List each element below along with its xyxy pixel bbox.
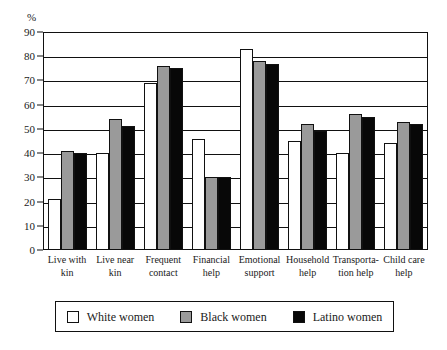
y-axis-tick-label: 70: [24, 75, 35, 86]
y-axis-tick-label: 60: [24, 99, 35, 110]
y-axis-unit-label: %: [27, 12, 36, 23]
legend-item[interactable]: Black women: [180, 311, 266, 323]
bar: [349, 114, 362, 250]
legend-item[interactable]: Latino women: [293, 311, 383, 323]
bar: [397, 122, 410, 250]
legend-swatch-icon: [67, 311, 79, 323]
bar: [122, 126, 135, 250]
x-axis-labels: Live with kinLive near kinFrequent conta…: [43, 254, 428, 294]
legend-swatch-icon: [180, 311, 192, 323]
legend-item-label: White women: [87, 311, 155, 323]
bar: [362, 117, 375, 250]
bar: [109, 119, 122, 250]
bar-group: [43, 32, 91, 250]
bar: [266, 64, 279, 251]
bar: [170, 68, 183, 250]
x-axis-category-label: Transporta- tion help: [332, 254, 380, 279]
x-axis-category-label: Emotional support: [236, 254, 284, 279]
bar: [410, 124, 423, 250]
bar: [74, 153, 87, 250]
y-axis-tick-label: 30: [24, 172, 35, 183]
bar: [301, 124, 314, 250]
x-axis-category-label: Live near kin: [91, 254, 139, 279]
bar: [61, 151, 74, 250]
bar: [288, 141, 301, 250]
y-axis-tick-label: 40: [24, 148, 35, 159]
bar: [96, 153, 109, 250]
bar-group: [139, 32, 187, 250]
y-axis: 0102030405060708090: [0, 32, 43, 250]
bar: [314, 131, 327, 250]
bar: [240, 49, 253, 250]
bar: [253, 61, 266, 250]
legend-swatch-icon: [293, 311, 305, 323]
x-axis-category-label: Live with kin: [43, 254, 91, 279]
x-axis-category-label: Household help: [284, 254, 332, 279]
bar: [218, 177, 231, 250]
legend: White womenBlack womenLatino women: [55, 301, 394, 332]
bar-group: [332, 32, 380, 250]
bar: [205, 177, 218, 250]
x-axis-category-label: Frequent contact: [139, 254, 187, 279]
legend-item-label: Black women: [200, 311, 266, 323]
x-axis-category-label: Financial help: [187, 254, 235, 279]
bar-group: [187, 32, 235, 250]
y-axis-tick-label: 10: [24, 220, 35, 231]
bar-group: [284, 32, 332, 250]
x-axis-category-label: Child care help: [380, 254, 428, 279]
y-axis-tick-label: 90: [24, 27, 35, 38]
bar: [144, 83, 157, 250]
y-axis-tick-label: 50: [24, 123, 35, 134]
legend-item[interactable]: White women: [67, 311, 155, 323]
bar-group: [236, 32, 284, 250]
bars-layer: [43, 32, 428, 250]
bar: [192, 139, 205, 250]
bar: [336, 153, 349, 250]
bar-group: [380, 32, 428, 250]
bar-group: [91, 32, 139, 250]
bar: [384, 143, 397, 250]
y-axis-tick-label: 80: [24, 51, 35, 62]
bar: [157, 66, 170, 250]
legend-item-label: Latino women: [313, 311, 383, 323]
y-axis-tick-label: 20: [24, 196, 35, 207]
bar-chart: % 0102030405060708090 Live with kinLive …: [0, 0, 447, 350]
bar: [48, 199, 61, 250]
y-axis-tick-label: 0: [30, 245, 36, 256]
